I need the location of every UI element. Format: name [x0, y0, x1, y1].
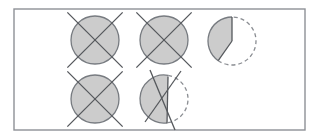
figure-root: [0, 0, 320, 139]
circle-crossed-2: [136, 12, 191, 67]
circle-crossed-1: [67, 12, 122, 67]
circle-crossed-3: [67, 71, 122, 126]
diagram-canvas: [0, 0, 320, 139]
